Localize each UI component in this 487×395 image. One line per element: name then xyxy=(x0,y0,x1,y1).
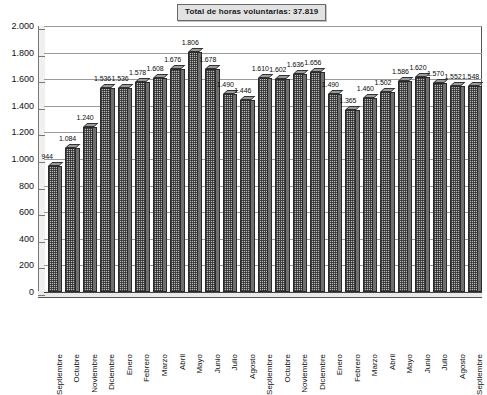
bar-body xyxy=(65,148,76,292)
bar-side-face xyxy=(233,94,237,292)
bar[interactable]: 1.084 xyxy=(65,26,76,292)
bar[interactable]: 944 xyxy=(48,26,59,292)
bar[interactable]: 1.610 xyxy=(258,26,269,292)
bar-value-label: 1.586 xyxy=(392,68,409,76)
bar-body xyxy=(415,77,426,292)
bar-value-label: 1.570 xyxy=(427,70,444,78)
x-axis-tick-label: Octubre xyxy=(283,354,292,382)
bar-side-face xyxy=(303,74,307,292)
bar[interactable]: 1.536 xyxy=(118,26,129,292)
bar[interactable]: 1.536 xyxy=(100,26,111,292)
x-axis-tick-label: Septiembre xyxy=(475,354,484,395)
bar[interactable]: 1.365 xyxy=(345,26,356,292)
bar[interactable]: 1.602 xyxy=(275,26,286,292)
bar-value-label: 1.490 xyxy=(322,81,339,89)
bar-body xyxy=(258,78,269,292)
bar-side-face xyxy=(321,72,325,292)
y-axis-tick-label: 1.800 xyxy=(0,48,34,58)
bar-body xyxy=(433,83,444,292)
bar[interactable]: 1.676 xyxy=(170,26,181,292)
x-axis-tick-label: Abril xyxy=(178,354,187,370)
x-axis-tick-label: Junio xyxy=(213,354,222,373)
bar[interactable]: 1.620 xyxy=(415,26,426,292)
bar-body xyxy=(345,110,356,292)
bar-value-label: 1.536 xyxy=(112,75,129,83)
x-axis-tick-label: Agosto xyxy=(458,354,467,379)
x-axis-tick-label: Enero xyxy=(335,354,344,375)
bar[interactable]: 1.636 xyxy=(293,26,304,292)
bar-body xyxy=(310,72,321,292)
bar-side-face xyxy=(128,88,132,292)
bar[interactable]: 1.578 xyxy=(135,26,146,292)
bar-side-face xyxy=(268,78,272,292)
x-axis-tick-label: Mayo xyxy=(195,354,204,374)
x-axis-tick-label: Febrero xyxy=(142,354,151,382)
bar-side-face xyxy=(58,166,62,292)
bar-body xyxy=(363,98,374,292)
bar-body xyxy=(328,94,339,292)
bar-side-face xyxy=(163,78,167,292)
x-axis-tick-label: Junio xyxy=(423,354,432,373)
bar-side-face xyxy=(443,83,447,292)
bar-body xyxy=(275,79,286,292)
y-axis-tick xyxy=(38,295,45,296)
bar-body xyxy=(100,88,111,292)
bar[interactable]: 1.460 xyxy=(363,26,374,292)
bar[interactable]: 1.586 xyxy=(398,26,409,292)
bar-value-label: 1.490 xyxy=(217,81,234,89)
bar-value-label: 1.636 xyxy=(287,61,304,69)
x-axis-tick-label: Marzo xyxy=(160,354,169,376)
x-axis-labels: SeptiembreOctubreNoviembreDiciembreEnero… xyxy=(44,300,487,356)
bar-side-face xyxy=(93,127,97,292)
bar-side-face xyxy=(426,77,430,292)
bar-side-face xyxy=(76,148,80,292)
x-axis-tick-label: Diciembre xyxy=(318,354,327,390)
bar-body xyxy=(170,69,181,292)
x-axis-tick-label: Diciembre xyxy=(107,354,116,390)
y-axis-tick-label: 1.600 xyxy=(0,74,34,84)
y-axis-tick-label: 1.000 xyxy=(0,154,34,164)
y-axis-tick-label: 1.200 xyxy=(0,127,34,137)
bar-value-label: 1.602 xyxy=(269,66,286,74)
bar-side-face xyxy=(251,100,255,292)
bar-side-face xyxy=(373,98,377,292)
x-axis-tick-label: Noviembre xyxy=(90,354,99,393)
bar-value-label: 1.676 xyxy=(164,56,181,64)
bar-body xyxy=(205,69,216,292)
bar-value-label: 1.678 xyxy=(199,56,216,64)
bar-side-face xyxy=(478,86,482,292)
bar-value-label: 1.460 xyxy=(357,85,374,93)
bar-value-label: 1.608 xyxy=(147,65,164,73)
bar-value-label: 1.240 xyxy=(77,114,94,122)
bar[interactable]: 1.608 xyxy=(153,26,164,292)
bar[interactable]: 1.502 xyxy=(380,26,391,292)
bar-body xyxy=(188,52,199,292)
bar[interactable]: 1.240 xyxy=(83,26,94,292)
y-axis-tick-label: 800 xyxy=(0,181,34,191)
bar-body xyxy=(293,74,304,292)
bar-value-label: 1.446 xyxy=(234,87,251,95)
gridline xyxy=(44,292,482,293)
bar[interactable]: 1.806 xyxy=(188,26,199,292)
bar[interactable]: 1.446 xyxy=(240,26,251,292)
bar-value-label: 1.552 xyxy=(444,73,461,81)
x-axis-tick-label: Octubre xyxy=(72,354,81,382)
bar[interactable]: 1.552 xyxy=(450,26,461,292)
bar[interactable]: 1.656 xyxy=(310,26,321,292)
bar[interactable]: 1.490 xyxy=(223,26,234,292)
bar-body xyxy=(398,81,409,292)
bar[interactable]: 1.490 xyxy=(328,26,339,292)
y-axis-tick-label: 2.000 xyxy=(0,21,34,31)
x-axis-tick-label: Marzo xyxy=(370,354,379,376)
bar-side-face xyxy=(338,94,342,292)
bar-side-face xyxy=(111,88,115,292)
bar-value-label: 1.620 xyxy=(409,64,426,72)
bar-value-label: 1.365 xyxy=(339,97,356,105)
bar-body xyxy=(223,94,234,292)
bar-side-face xyxy=(216,69,220,292)
x-axis-tick-label: Agosto xyxy=(248,354,257,379)
bar[interactable]: 1.678 xyxy=(205,26,216,292)
y-axis-tick-label: 400 xyxy=(0,234,34,244)
bar[interactable]: 1.570 xyxy=(433,26,444,292)
bar[interactable]: 1.548 xyxy=(468,26,479,292)
